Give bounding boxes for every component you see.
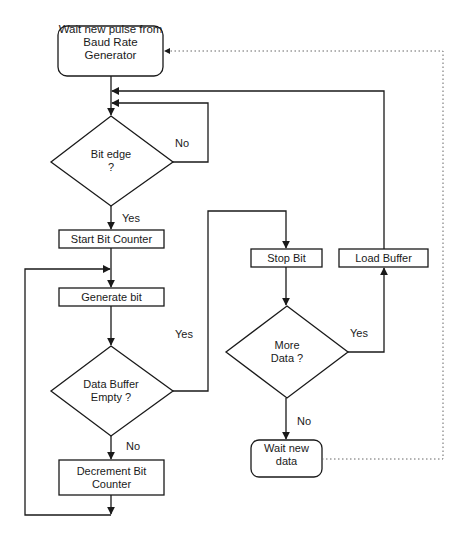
- decrement-line1: Decrement Bit: [77, 465, 147, 478]
- load-buffer-text: Load Buffer: [339, 249, 428, 267]
- label-buffer-no: No: [126, 440, 140, 453]
- wait-pulse-line1: Wait new pulse from: [59, 23, 163, 36]
- dotted-arrowhead-icon: [164, 48, 170, 54]
- stop-bit-text: Stop Bit: [251, 249, 322, 267]
- label-buffer-yes: Yes: [175, 328, 193, 341]
- more-data-line1: More: [274, 339, 299, 352]
- wait-pulse-text: Wait new pulse from Baud Rate Generator: [58, 28, 163, 56]
- wait-pulse-line2: Baud Rate Generator: [58, 36, 163, 62]
- wait-data-line1: Wait new: [264, 442, 309, 455]
- more-data-text: More Data ?: [250, 337, 324, 367]
- label-moredata-no: No: [297, 415, 311, 428]
- bit-edge-line1: Bit edge: [91, 148, 131, 161]
- data-buffer-line1: Data Buffer: [83, 378, 138, 391]
- edge-loadbuffer-to-top: [112, 91, 384, 249]
- label-moredata-yes: Yes: [350, 327, 368, 340]
- wait-data-line2: data: [276, 455, 297, 468]
- decrement-bit-counter-text: Decrement Bit Counter: [59, 461, 164, 494]
- bit-edge-text: Bit edge ?: [71, 146, 151, 176]
- start-bit-counter-text: Start Bit Counter: [59, 230, 164, 248]
- generate-bit-text: Generate bit: [59, 288, 164, 306]
- more-data-line2: Data ?: [271, 352, 303, 365]
- data-buffer-line2: Empty ?: [91, 391, 131, 404]
- label-bitedge-yes: Yes: [122, 212, 140, 225]
- wait-new-data-text: Wait new data: [251, 441, 322, 469]
- label-bitedge-no: No: [175, 137, 189, 150]
- data-buffer-empty-text: Data Buffer Empty ?: [71, 376, 151, 406]
- bit-edge-line2: ?: [108, 161, 114, 174]
- decrement-line2: Counter: [92, 478, 131, 491]
- flowchart-canvas: [0, 0, 467, 535]
